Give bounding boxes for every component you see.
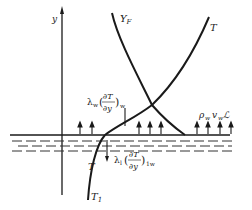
svg-text:v: v bbox=[212, 110, 217, 120]
svg-text:(: ( bbox=[124, 154, 128, 167]
mass-flux-label: ρ w v w ℒ bbox=[198, 110, 230, 121]
svg-text:ρ: ρ bbox=[198, 110, 205, 120]
svg-text:l: l bbox=[120, 159, 122, 166]
y-axis-label: y bbox=[51, 14, 58, 24]
svg-text:∂y: ∂y bbox=[129, 162, 138, 171]
svg-text:w: w bbox=[120, 102, 126, 109]
gas-temperature-curve bbox=[105, 17, 209, 135]
liquid-heat-flux-arrowhead bbox=[105, 156, 109, 162]
svg-text:ℒ: ℒ bbox=[223, 110, 230, 120]
svg-text:1w: 1w bbox=[146, 160, 156, 167]
liquid-heat-flux-label: λ l ( ∂T ∂y ) 1w bbox=[114, 150, 156, 171]
svg-text:∂y: ∂y bbox=[103, 104, 112, 113]
svg-text:): ) bbox=[115, 96, 119, 109]
y-axis-arrowhead bbox=[60, 6, 64, 14]
fuel-fraction-label: YF bbox=[120, 13, 133, 26]
svg-text:): ) bbox=[141, 154, 145, 167]
svg-text:∂T: ∂T bbox=[103, 92, 113, 101]
interior-temperature-label: T1 bbox=[91, 191, 102, 204]
svg-text:∂T: ∂T bbox=[129, 150, 139, 159]
diagram-canvas: y YF T T T1 bbox=[0, 0, 252, 210]
gas-temperature-label: T bbox=[210, 22, 218, 33]
fuel-fraction-curve bbox=[112, 13, 185, 135]
svg-text:w: w bbox=[205, 114, 211, 121]
diagram-svg: y YF T T T1 bbox=[0, 0, 252, 210]
gas-heat-flux-label: λ w ( ∂T ∂y ) w bbox=[87, 92, 126, 113]
blowing-arrows bbox=[78, 122, 233, 134]
liquid-temperature-label: T bbox=[88, 161, 96, 172]
